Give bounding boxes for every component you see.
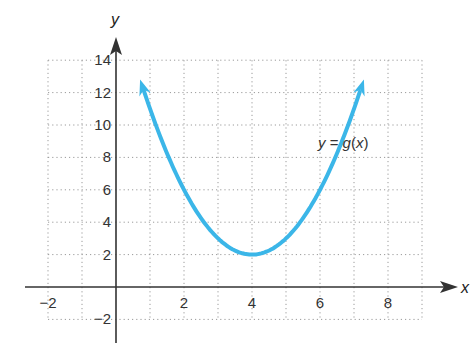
x-tick-label: 6 [316, 294, 324, 311]
x-tick-label: 2 [180, 294, 188, 311]
y-tick-label: 10 [94, 116, 111, 133]
y-axis-label: y [110, 11, 120, 28]
x-axis-label: x [460, 279, 470, 296]
x-tick-label: −2 [39, 294, 56, 311]
y-tick-label: 6 [103, 181, 111, 198]
y-tick-label: 8 [103, 148, 111, 165]
y-tick-label: 12 [94, 84, 111, 101]
parabola-chart: x y −22468−22468101214 y = g(x) [0, 0, 473, 343]
curve-label: y = g(x) [317, 134, 368, 151]
y-tick-label: −2 [94, 310, 111, 327]
y-tick-label: 2 [103, 246, 111, 263]
x-tick-label: 4 [248, 294, 256, 311]
y-tick-label: 14 [94, 51, 111, 68]
x-tick-label: 8 [384, 294, 392, 311]
y-tick-label: 4 [103, 213, 111, 230]
tick-labels: −22468−22468101214 [39, 51, 392, 327]
